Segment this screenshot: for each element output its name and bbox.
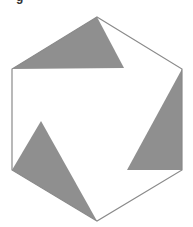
top-triangle <box>12 17 124 69</box>
left-triangle <box>12 121 97 221</box>
hexagon-diagram <box>0 0 193 227</box>
shaded-triangles <box>12 17 182 221</box>
right-triangle <box>127 69 182 170</box>
